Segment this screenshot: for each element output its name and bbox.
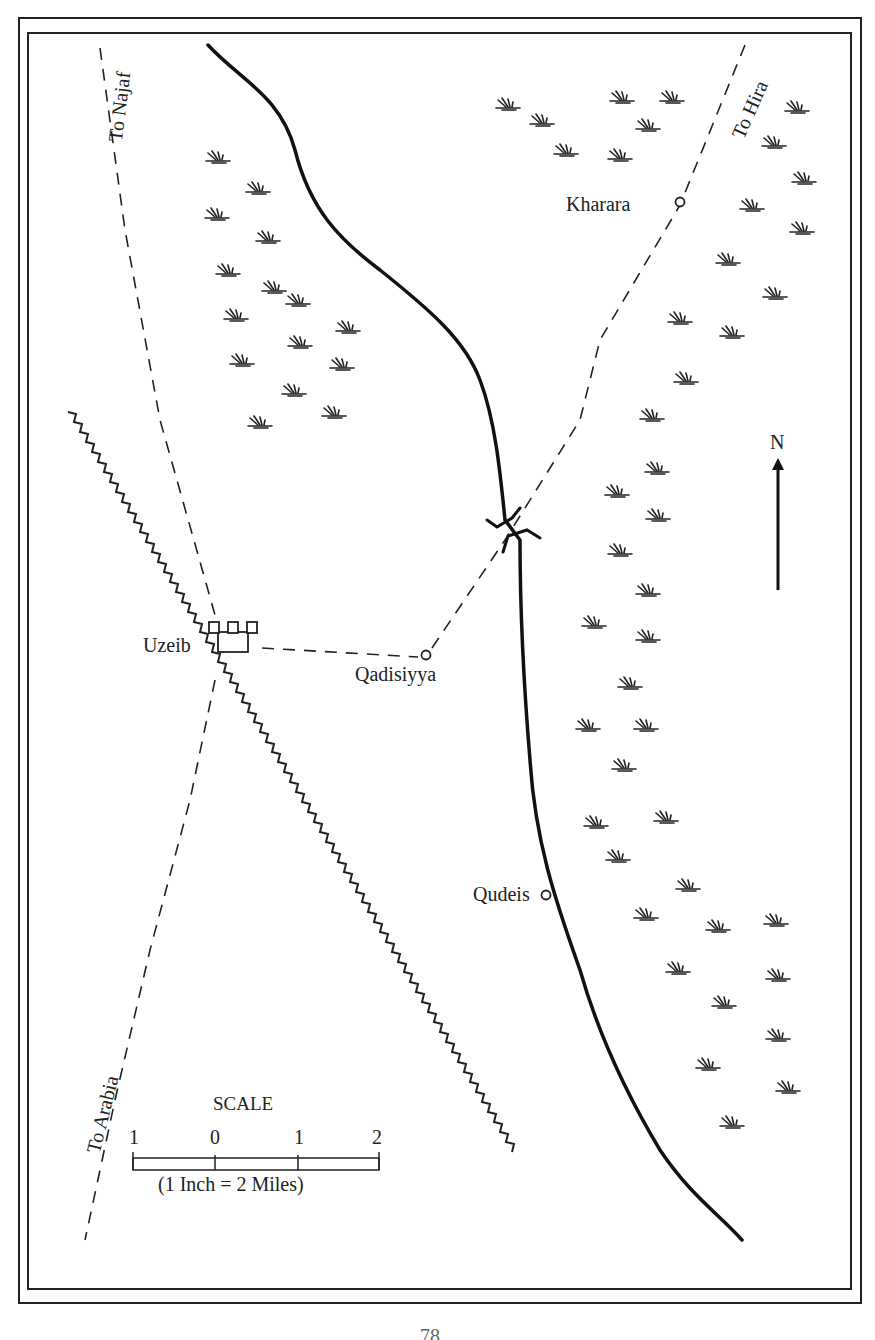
north-arrow-icon	[772, 458, 784, 590]
road-uzeib-qadisiyya	[262, 648, 418, 657]
scale-tick-label: 1	[129, 1126, 139, 1149]
place-label-kharara: Kharara	[566, 193, 630, 216]
place-label-qudeis: Qudeis	[473, 883, 530, 906]
page-number: 78	[420, 1325, 440, 1340]
road-qadisiyya-hira	[432, 45, 745, 648]
north-label: N	[770, 431, 784, 454]
inner-frame	[28, 33, 851, 1289]
scale-title: SCALE	[213, 1093, 273, 1115]
scale-tick-label: 2	[372, 1126, 382, 1149]
river	[208, 45, 742, 1240]
road-to-arabia	[85, 680, 215, 1240]
qudeis-marker-icon	[542, 891, 551, 900]
scale-bar	[133, 1152, 379, 1170]
place-label-qadisiyya: Qadisiyya	[355, 663, 436, 686]
scale-tick-label: 0	[210, 1126, 220, 1149]
fort-icon	[209, 622, 257, 652]
qadisiyya-marker-icon	[422, 651, 431, 660]
scale-note: (1 Inch = 2 Miles)	[158, 1173, 304, 1196]
outer-frame	[19, 18, 861, 1303]
canal	[68, 412, 514, 1152]
scale-tick-label: 1	[294, 1126, 304, 1149]
place-label-uzeib: Uzeib	[143, 634, 191, 657]
marsh-icons	[205, 91, 816, 1128]
kharara-marker-icon	[676, 198, 685, 207]
